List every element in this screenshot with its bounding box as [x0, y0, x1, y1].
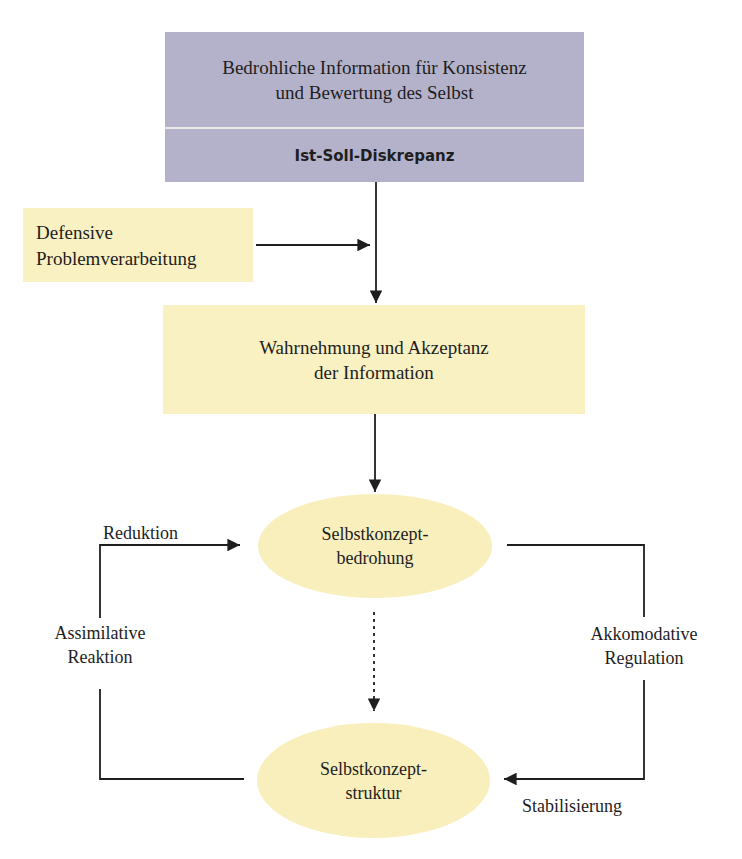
assimilative-reaction-label: Assimilative Reaktion: [40, 621, 160, 669]
akkomodative-line2: Regulation: [574, 646, 714, 670]
akkomodative-upper-line: [507, 545, 644, 617]
stabilisierung-arrow: [504, 680, 644, 779]
assimilative-line2: Reaktion: [40, 645, 160, 669]
connector-lines: [0, 0, 742, 859]
assimilative-lower-line: [100, 689, 244, 779]
akkomodative-line1: Akkomodative: [574, 622, 714, 646]
assimilative-line1: Assimilative: [40, 621, 160, 645]
stabilisierung-label: Stabilisierung: [522, 794, 622, 818]
reduktion-label: Reduktion: [103, 521, 178, 545]
reduktion-arrow: [100, 545, 240, 618]
akkomodative-regulation-label: Akkomodative Regulation: [574, 622, 714, 670]
